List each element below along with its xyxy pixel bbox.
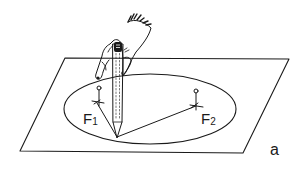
ellipse (64, 74, 236, 144)
pin-f1 (92, 86, 104, 106)
string (97, 103, 196, 137)
pencil (113, 42, 123, 138)
focus-label-f1: F1 (83, 110, 98, 127)
paper-sheet (20, 58, 289, 153)
panel-label: a (270, 141, 279, 158)
focus-label-f2: F2 (201, 110, 216, 127)
ellipse-construction-figure: F1 F2 a (0, 0, 308, 172)
pin-f2 (190, 89, 203, 110)
